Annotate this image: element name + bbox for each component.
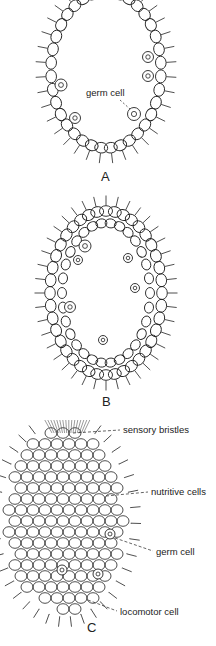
cell-c [51, 439, 63, 450]
germ-cell-a5 [128, 108, 141, 121]
figure-b-flagellum [161, 251, 171, 254]
figure-b-flagellum [54, 226, 62, 232]
figure-a-flagellum [63, 138, 70, 145]
figure-b-cell [45, 299, 57, 313]
figure-b-cell [46, 260, 59, 275]
cell-c [57, 604, 69, 615]
cell-c [27, 439, 39, 450]
figure-a-flagellum [112, 153, 113, 163]
cell-c [93, 582, 105, 593]
figure-b-flagellum [156, 344, 165, 348]
sensory-bristle [63, 420, 65, 433]
figure-b-flagellum [150, 226, 158, 232]
cell-c [75, 571, 87, 582]
figure-b-cell [153, 260, 166, 275]
figure-a-cell [59, 6, 75, 23]
figure-b-cell [46, 311, 59, 326]
germ-cell-a1 [55, 79, 67, 91]
figure-c-flagellum [19, 435, 26, 442]
cell-c [39, 593, 51, 604]
figure-c-flagellum [0, 490, 2, 492]
cell-c [117, 516, 129, 527]
cell-c [9, 560, 21, 571]
label-locomotor-cell: locomotor cell [120, 606, 179, 617]
cell-c [51, 461, 63, 472]
cell-c [57, 582, 69, 593]
cell-c [33, 538, 45, 549]
figure-c-flagellum [124, 475, 133, 478]
cell-c [3, 527, 15, 538]
sensory-bristle [60, 420, 63, 433]
cell-c [33, 560, 45, 571]
cell-c [21, 494, 33, 505]
figure-a-cell [46, 70, 57, 84]
figure-c-flagellum [119, 460, 128, 464]
figure-c-flagellum [131, 507, 141, 508]
cell-c [45, 450, 57, 461]
cell-c [51, 593, 63, 604]
figure-b-flagellum [35, 279, 45, 280]
cell-c [33, 450, 45, 461]
figure-a-cell [45, 56, 56, 70]
figure-b-flagellum [165, 264, 175, 266]
cell-c [63, 461, 75, 472]
figure-b-inner-cell [85, 353, 99, 366]
figure-c-flagellum [116, 581, 125, 586]
figure-c-flagellum [70, 617, 71, 627]
figure-b-cell [107, 205, 122, 218]
cell-c [45, 538, 57, 549]
figure-a-flagellum [99, 153, 100, 163]
figure-b-flagellum [116, 379, 118, 389]
cell-c [75, 549, 87, 560]
figure-b-flagellum [135, 371, 141, 379]
figure-a-flagellum [55, 5, 63, 11]
figure-b-flagellum [165, 320, 175, 322]
figure-a-flagellum [165, 46, 175, 48]
figure-b-flagellum [71, 371, 77, 379]
cell-c [105, 472, 117, 483]
cell-c [105, 516, 117, 527]
figure-a-flagellum [165, 91, 175, 93]
figure-a-cell [153, 42, 166, 57]
figure-b-flagellum [135, 208, 141, 216]
figure-b-cell [123, 212, 140, 228]
figure-a-flagellum [64, 0, 71, 2]
figure-c-flagellum [23, 602, 30, 609]
cell-c [87, 439, 99, 450]
cell-c [45, 494, 57, 505]
germ-cell-c3 [93, 569, 103, 579]
cell-c [69, 494, 81, 505]
cell-c [93, 538, 105, 549]
figure-a-cell [84, 138, 100, 153]
figure-b-flagellum [126, 201, 130, 210]
figure-a-flagellum [47, 18, 56, 23]
cell-c [75, 461, 87, 472]
figure-b-flagellum [82, 201, 86, 210]
germ-cell-b6 [99, 336, 108, 345]
figure-a-flagellum [141, 0, 148, 2]
figure-b-inner-cell [144, 272, 154, 284]
figure-b-inner-cell [60, 315, 72, 328]
figure-a-cell [129, 0, 146, 14]
cell-c [51, 505, 63, 516]
figure-b-cell [123, 358, 140, 374]
cell-c [69, 472, 81, 483]
figure-b-cell [81, 207, 97, 222]
figure-b-inner-cell [58, 272, 68, 284]
sensory-bristle [71, 420, 72, 433]
cell-c [57, 472, 69, 483]
figure-a-flagellum [166, 77, 176, 78]
figure-a-flagellum [47, 117, 56, 121]
figure-b-flagellum [38, 264, 48, 266]
figure-b-inner-cell [140, 258, 152, 271]
figure-c-flagellum [0, 568, 8, 572]
figure-c-flagellum [34, 609, 39, 618]
cell-c [9, 516, 21, 527]
cell-c [93, 494, 105, 505]
figure-b-flagellum [167, 306, 177, 307]
figure-a-cell [137, 6, 153, 23]
sensory-bristle [73, 420, 75, 433]
figure-b-inner-cell [60, 258, 72, 271]
figure-a-flagellum [74, 145, 80, 153]
cell-c [33, 516, 45, 527]
